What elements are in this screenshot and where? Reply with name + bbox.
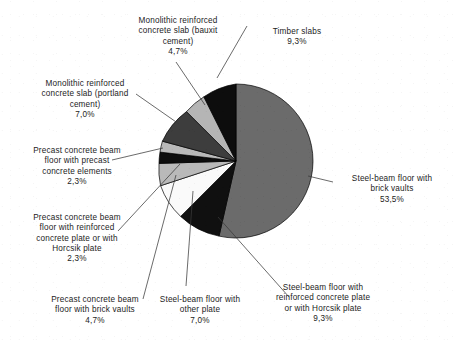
slice-label-steel-reinforced: Steel-beam floor with reinforced concret… bbox=[256, 273, 390, 334]
slice-label-text: Timber slabs bbox=[273, 27, 322, 36]
slice-label-text: Steel-beam floor with brick vaults bbox=[352, 174, 432, 193]
leader-line-steel-brick-vaults bbox=[308, 176, 333, 182]
slice-label-precast-brick-vaults: Precast concrete beam floor with brick v… bbox=[28, 285, 162, 336]
leader-line-bauxit bbox=[176, 62, 205, 105]
slice-label-text: Precast concrete beam floor with precast… bbox=[33, 146, 121, 175]
slice-label-precast-reinforced: Precast concrete beam floor with reinfor… bbox=[4, 203, 150, 274]
slice-label-percent: 4,7% bbox=[28, 316, 162, 326]
slice-label-percent: 2,3% bbox=[4, 254, 150, 264]
slice-label-percent: 4,7% bbox=[112, 47, 244, 57]
slice-label-steel-other-plate: Steel-beam floor with other plate 7,0% bbox=[148, 285, 252, 336]
slice-label-monolithic-bauxit: Monolithic reinforced concrete slab (bau… bbox=[112, 6, 244, 67]
slice-label-percent: 9,3% bbox=[249, 37, 345, 47]
pie-slices bbox=[159, 84, 313, 238]
slice-label-steel-brick-vaults: Steel-beam floor with brick vaults 53,5% bbox=[336, 164, 448, 215]
slice-label-text: Precast concrete beam floor with brick v… bbox=[51, 295, 139, 314]
slice-label-percent: 7,0% bbox=[16, 110, 154, 120]
slice-label-timber-slabs: Timber slabs 9,3% bbox=[249, 17, 345, 58]
slice-label-text: Monolithic reinforced concrete slab (por… bbox=[41, 79, 128, 108]
slice-label-percent: 2,3% bbox=[8, 177, 146, 187]
slice-label-percent: 9,3% bbox=[256, 314, 390, 324]
slice-label-text: Steel-beam floor with other plate bbox=[160, 295, 240, 314]
slice-label-text: Precast concrete beam floor with reinfor… bbox=[33, 213, 121, 253]
slice-label-precast-elements: Precast concrete beam floor with precast… bbox=[8, 136, 146, 197]
slice-label-monolithic-portland: Monolithic reinforced concrete slab (por… bbox=[16, 69, 154, 130]
slice-label-text: Monolithic reinforced concrete slab (bau… bbox=[139, 16, 218, 45]
slice-label-text: Steel-beam floor with reinforced concret… bbox=[276, 283, 370, 312]
slice-label-percent: 53,5% bbox=[336, 195, 448, 205]
pie-chart-figure: Monolithic reinforced concrete slab (bau… bbox=[0, 0, 453, 344]
slice-label-percent: 7,0% bbox=[148, 316, 252, 326]
